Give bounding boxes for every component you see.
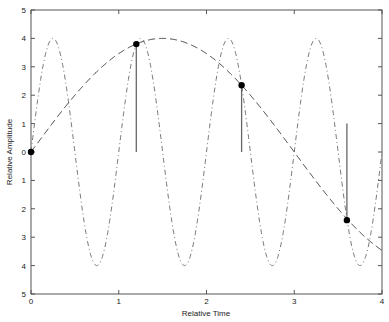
x-tick-label: 1 [117, 297, 122, 306]
sample-point [133, 41, 139, 47]
x-tick-label: 0 [29, 297, 34, 306]
x-tick-label: 2 [204, 297, 209, 306]
sample-point [238, 82, 244, 88]
y-tick-label: 0 [22, 148, 27, 157]
sample-point [344, 217, 350, 223]
plot-area: 0123454321012345 [22, 6, 385, 306]
x-tick-label: 4 [380, 297, 385, 306]
y-tick-label: 2 [22, 91, 27, 100]
y-tick-label: 4 [22, 262, 27, 271]
high-frequency-curve [31, 38, 382, 265]
y-tick-label: 3 [22, 233, 27, 242]
y-tick-label: 4 [22, 34, 27, 43]
y-tick-label: 1 [22, 120, 27, 129]
sample-point [28, 149, 34, 155]
y-tick-label: 2 [22, 205, 27, 214]
aliasing-chart: 0123454321012345 Relative Amplitude Rela… [0, 0, 389, 322]
x-tick-label: 3 [292, 297, 297, 306]
y-tick-label: 5 [22, 6, 27, 15]
y-axis-label: Relative Amplitude [5, 118, 14, 185]
y-tick-label: 5 [22, 290, 27, 299]
y-tick-label: 3 [22, 63, 27, 72]
x-axis-label: Relative Time [182, 309, 231, 318]
y-tick-label: 1 [22, 176, 27, 185]
